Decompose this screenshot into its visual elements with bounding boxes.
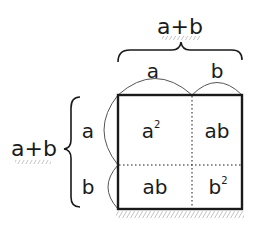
- top-total-label: a+b: [157, 14, 203, 39]
- bottom-hatch: [116, 211, 244, 218]
- cell-b-squared-exponent: 2: [221, 175, 227, 186]
- cell-b-squared-base: b: [208, 175, 221, 199]
- left-segment-a: a: [82, 119, 94, 143]
- cell-b-squared: b2: [208, 175, 227, 199]
- cell-a-squared-base: a: [142, 119, 154, 143]
- top-label-hatch: [162, 36, 200, 40]
- left-total-label: a+b: [11, 136, 57, 161]
- outer-square: [118, 95, 242, 209]
- cell-ab-top: ab: [205, 119, 230, 143]
- left-segment-b: b: [82, 175, 95, 199]
- top-brace: [118, 42, 242, 62]
- top-segment-b: b: [211, 59, 224, 83]
- left-brace: [64, 97, 80, 207]
- binomial-square-diagram: a+b a b a+b a b a2 ab ab b2: [0, 0, 259, 235]
- left-arc-b: [108, 165, 118, 209]
- cell-ab-bottom: ab: [143, 175, 168, 199]
- cell-a-squared: a2: [142, 119, 161, 143]
- left-label-hatch: [15, 160, 51, 164]
- left-arc-a: [104, 95, 118, 165]
- top-arc-b: [192, 83, 242, 96]
- cell-a-squared-exponent: 2: [154, 119, 160, 130]
